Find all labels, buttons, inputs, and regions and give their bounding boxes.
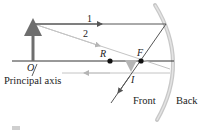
decorative-mark bbox=[12, 126, 20, 130]
principal-axis-label: Principal axis bbox=[4, 75, 61, 86]
ray-2-label: 2 bbox=[83, 28, 88, 39]
focal-point-label: F bbox=[136, 47, 144, 58]
ray-1-label: 1 bbox=[87, 13, 92, 24]
center-of-curvature-point bbox=[107, 58, 112, 63]
front-label: Front bbox=[133, 95, 156, 106]
center-of-curvature-label: R bbox=[99, 48, 106, 59]
back-label: Back bbox=[176, 95, 198, 106]
focal-point bbox=[138, 58, 143, 63]
image-label: I bbox=[130, 74, 135, 85]
object-base-label: O bbox=[27, 62, 34, 73]
ray-diagram: 1 2 O Principal axis R F I Front Back bbox=[0, 0, 208, 134]
